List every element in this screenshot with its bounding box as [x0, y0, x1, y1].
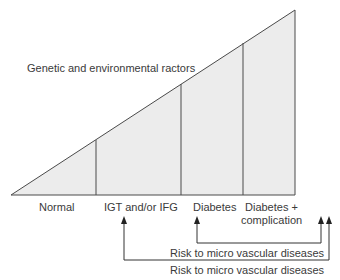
arrow-label-outer: Risk to micro vascular diseases [170, 264, 324, 277]
factors-label: Genetic and environmental ractors [27, 62, 195, 75]
arrow-up-icon [326, 216, 332, 224]
stage-label-complication-2: complication [241, 214, 302, 227]
arrow-up-icon [121, 216, 127, 224]
progression-triangle [11, 10, 295, 195]
stage-label-complication-1: Diabetes + [245, 201, 298, 214]
arrow-label-inner: Risk to micro vascular diseases [170, 247, 324, 260]
diagram-canvas [0, 0, 340, 280]
arrow-up-icon [318, 216, 324, 224]
arrow-up-icon [194, 216, 200, 224]
stage-label-igt: IGT and/or IFG [104, 201, 178, 214]
stage-label-diabetes: Diabetes [193, 201, 236, 214]
stage-label-normal: Normal [39, 201, 74, 214]
